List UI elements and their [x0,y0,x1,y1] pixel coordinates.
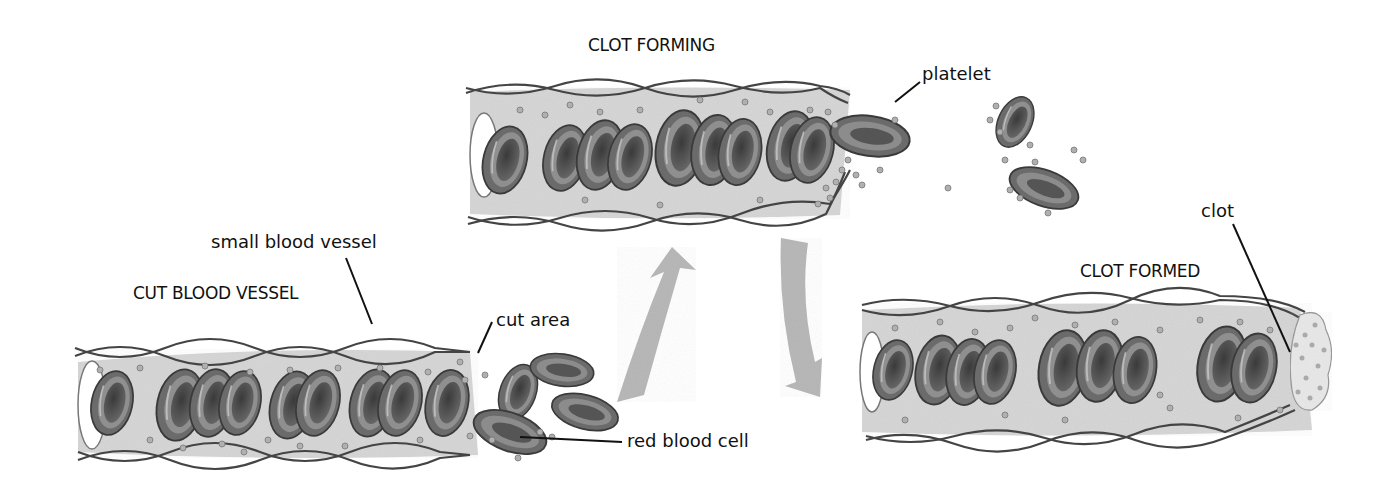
leader-platelet [895,82,920,102]
red-blood-cells-escaping [828,91,1084,217]
stage-clot-formed [860,224,1332,452]
clot-mass [1290,313,1331,411]
arrow-up-icon [617,247,696,402]
arrow-down-icon [781,238,822,397]
leader-cut-area [478,322,492,353]
callout-clot: clot [1201,202,1234,220]
callout-cut-area: cut area [496,311,570,329]
leader-small-blood-vessel [346,258,372,324]
callout-small-blood-vessel: small blood vessel [211,233,377,251]
callout-red-blood-cell: red blood cell [627,432,749,450]
callout-platelet: platelet [922,65,991,83]
blood-clotting-diagram: CLOT FORMING CUT BLOOD VESSEL CLOT FORME… [0,0,1392,493]
title-clot-formed: CLOT FORMED [1080,263,1200,280]
title-cut-blood-vessel: CUT BLOOD VESSEL [133,285,298,302]
red-blood-cells-escaping [468,350,622,463]
title-clot-forming: CLOT FORMING [588,37,715,54]
stage-clot-forming [466,79,1086,230]
